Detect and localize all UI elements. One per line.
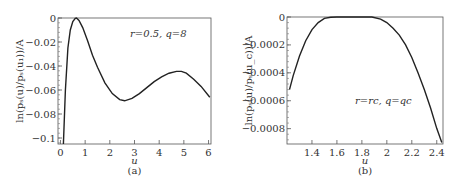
x-tick-label: 1.6 xyxy=(329,147,345,158)
ticks-b: 0−0.0002−0.0004−0.0006−0.00081.41.61.822… xyxy=(242,12,445,159)
y-tick-label: 0 xyxy=(50,13,56,24)
curve-b xyxy=(290,17,442,143)
annotation-a: r=0.5, q=8 xyxy=(130,28,187,39)
panel-label-b: (b) xyxy=(358,165,372,176)
x-tick-label: 2.4 xyxy=(429,147,445,158)
x-tick-label: 2.2 xyxy=(404,147,420,158)
y-tick-label: −0.1 xyxy=(32,133,56,144)
x-tick-label: 1.4 xyxy=(304,147,320,158)
plot-frame-b xyxy=(287,17,443,144)
panel-a: 0−0.02−0.04−0.06−0.08−0.10123456 r=0.5, … xyxy=(14,13,212,177)
x-tick-label: 6 xyxy=(205,147,211,158)
x-tick-label: 2 xyxy=(384,147,390,158)
y-tick-label: −0.02 xyxy=(25,37,56,48)
panel-label-a: (a) xyxy=(128,165,142,176)
annotation-b: r=rc, q=qc xyxy=(355,95,412,106)
x-tick-label: 2 xyxy=(107,147,113,158)
x-tick-label: 1 xyxy=(82,147,88,158)
y-tick-label: −0.06 xyxy=(25,85,56,96)
y-axis-label-b: ln(pₛ(u)/pₛ(u_c))/A xyxy=(243,35,255,126)
x-tick-label: 5 xyxy=(181,147,187,158)
y-tick-label: 0 xyxy=(279,12,285,23)
y-tick-label: −0.04 xyxy=(25,61,56,72)
y-axis-label-a: ln(pₛ(u)/pₛ(u₁))/A xyxy=(14,39,25,123)
panel-b: 0−0.0002−0.0004−0.0006−0.00081.41.61.822… xyxy=(242,12,445,177)
x-tick-label: 4 xyxy=(156,147,162,158)
x-tick-label: 0 xyxy=(57,147,63,158)
figure: 0−0.02−0.04−0.06−0.08−0.10123456 r=0.5, … xyxy=(0,0,451,189)
y-tick-label: −0.08 xyxy=(25,109,56,120)
